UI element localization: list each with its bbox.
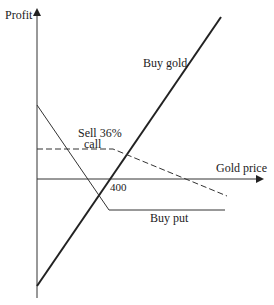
y-axis-label: Profit	[5, 8, 33, 22]
sell-call-label-2: call	[84, 137, 102, 151]
buy-put-line	[37, 105, 225, 210]
buy-gold-label: Buy gold	[143, 56, 187, 70]
sell-call-line	[37, 149, 227, 196]
buy-put-label: Buy put	[150, 211, 189, 225]
buy-gold-line	[37, 17, 221, 286]
x-axis-label: Gold price	[216, 161, 267, 175]
payoff-diagram: Profit Gold price 400 Buy gold Sell 36% …	[0, 0, 274, 305]
strike-label: 400	[110, 181, 127, 193]
